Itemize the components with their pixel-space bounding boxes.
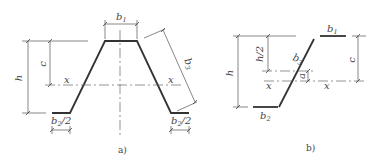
dimension-c: c (37, 39, 52, 87)
dimension-b2-half-left: b2/2 (50, 115, 72, 134)
figure-b-z-section: h h/2 a c b1 b3 (224, 23, 366, 153)
dimension-b3: b3 (144, 28, 197, 111)
section-diagrams: h c x x b1 (0, 0, 382, 167)
label-h-b: h (224, 70, 235, 76)
label-x-left-b: x (266, 80, 272, 91)
label-b2-b: b2 (260, 110, 271, 123)
caption-b: b) (306, 143, 315, 153)
label-b1: b1 (116, 11, 127, 24)
dimension-b1: b1 (103, 11, 139, 39)
label-b1-b: b1 (327, 23, 338, 36)
web-b3 (279, 39, 314, 107)
dimension-c-b: c (346, 34, 360, 83)
dimension-h-b: h (224, 34, 240, 109)
label-x-left: x (64, 74, 70, 85)
label-b3: b3 (180, 56, 196, 71)
label-b3-b: b3 (291, 52, 305, 68)
dimension-h-half: h/2 (254, 34, 270, 73)
label-x-right: x (168, 74, 174, 85)
figure-a-trapezoid-section: h c x x b1 (13, 11, 197, 155)
label-c-b: c (346, 57, 357, 63)
caption-a: a) (118, 145, 127, 155)
label-h-half: h/2 (254, 46, 265, 62)
label-c: c (37, 61, 48, 67)
label-a: a (296, 73, 307, 79)
label-x-right-b: x (324, 80, 330, 91)
dimension-b2-half-right: b2/2 (169, 115, 191, 134)
label-b2-half-left: b2/2 (51, 115, 71, 128)
label-h: h (13, 75, 24, 81)
dimension-h: h (13, 39, 30, 115)
label-b2-half-right: b2/2 (171, 115, 191, 128)
